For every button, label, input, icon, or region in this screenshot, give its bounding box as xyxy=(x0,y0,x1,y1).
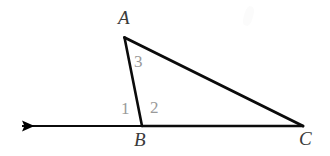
geometry-canvas xyxy=(0,0,330,156)
angle-label-3: 3 xyxy=(134,53,143,70)
vertex-label-a: A xyxy=(118,8,130,27)
angle-label-1: 1 xyxy=(121,100,130,117)
vertex-label-b: B xyxy=(134,130,146,149)
angle-label-2: 2 xyxy=(150,99,159,116)
geometry-figure: A B C 3 1 2 xyxy=(0,0,330,156)
vertex-label-c: C xyxy=(299,129,312,148)
